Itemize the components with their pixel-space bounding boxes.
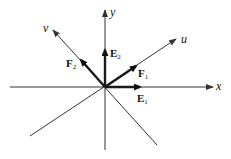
y-axis-label: y bbox=[110, 6, 115, 18]
vector-f2-label: F2 bbox=[66, 58, 76, 71]
axes-group bbox=[10, 10, 213, 150]
v-axis-label: v bbox=[43, 22, 48, 34]
vector-f1-arrow bbox=[105, 66, 136, 87]
diagram-canvas bbox=[0, 0, 231, 159]
vector-e1-label: E1 bbox=[137, 93, 148, 106]
vector-f1-label: F1 bbox=[138, 68, 148, 81]
x-axis-label: x bbox=[216, 80, 221, 92]
vector-e2-label: E2 bbox=[110, 48, 121, 61]
u-axis-label: u bbox=[181, 33, 187, 45]
vector-f2-arrow bbox=[81, 60, 105, 87]
